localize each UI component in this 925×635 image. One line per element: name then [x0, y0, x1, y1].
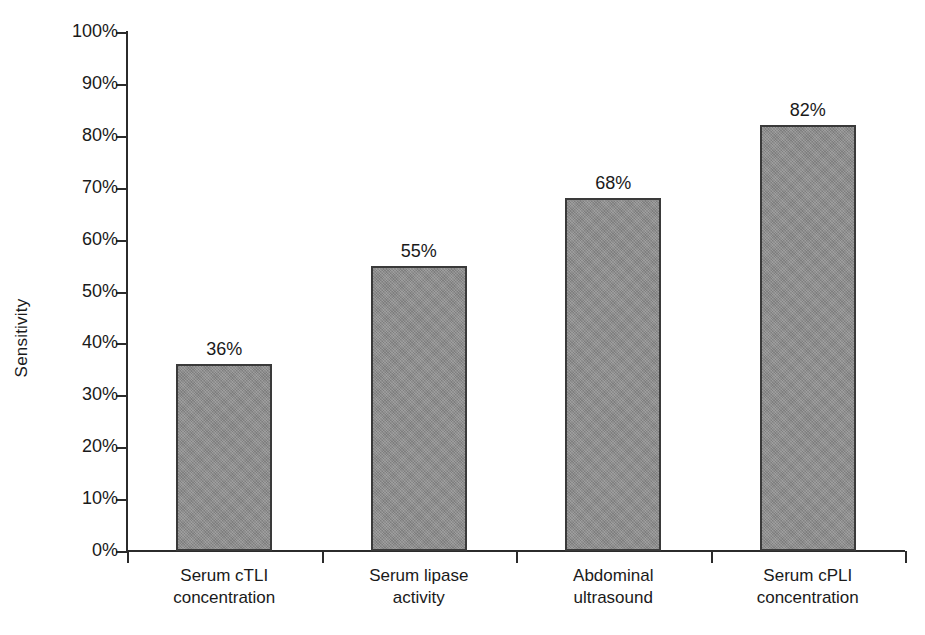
x-category-label: Serum lipaseactivity: [322, 565, 517, 609]
x-category-label-line: Abdominal: [516, 565, 711, 587]
y-tick-label: 30%: [82, 384, 118, 404]
bar-value-label: 82%: [790, 100, 826, 120]
x-category-label-line: Serum cTLI: [127, 565, 322, 587]
y-tick-label: 70%: [82, 177, 118, 197]
bar-value-label: 36%: [206, 339, 242, 359]
x-tick-mark: [711, 551, 713, 563]
x-category-label: Serum cTLIconcentration: [127, 565, 322, 609]
y-tick-label: 0%: [92, 540, 118, 560]
x-category-label-line: Serum cPLI: [711, 565, 906, 587]
x-category-label-line: Serum lipase: [322, 565, 517, 587]
x-category-label-line: activity: [322, 587, 517, 609]
y-tick-label: 100%: [72, 21, 118, 41]
y-tick-label: 80%: [82, 125, 118, 145]
plot-area: 0%10%20%30%40%50%60%70%80%90%100% 36%55%…: [127, 32, 905, 551]
bar: 82%: [760, 125, 856, 551]
x-category-label: Serum cPLIconcentration: [711, 565, 906, 609]
bar-value-label: 68%: [595, 173, 631, 193]
x-category-label: Abdominalultrasound: [516, 565, 711, 609]
y-tick-label: 90%: [82, 73, 118, 93]
bar: 68%: [565, 198, 661, 551]
x-category-label-line: concentration: [127, 587, 322, 609]
y-tick-label: 60%: [82, 229, 118, 249]
x-category-label-line: concentration: [711, 587, 906, 609]
bar: 55%: [371, 266, 467, 551]
y-tick-label: 10%: [82, 488, 118, 508]
x-category-label-line: ultrasound: [516, 587, 711, 609]
bar-value-label: 55%: [401, 241, 437, 261]
bar-chart-figure: Sensitivity 0%10%20%30%40%50%60%70%80%90…: [0, 0, 925, 635]
x-tick-mark: [322, 551, 324, 563]
x-tick-mark: [127, 551, 129, 563]
y-tick-label: 20%: [82, 436, 118, 456]
y-axis-title: Sensitivity: [12, 268, 32, 408]
x-tick-mark: [905, 551, 907, 563]
y-tick-label: 40%: [82, 332, 118, 352]
y-tick-label: 50%: [82, 281, 118, 301]
bar: 36%: [176, 364, 272, 551]
x-tick-mark: [516, 551, 518, 563]
